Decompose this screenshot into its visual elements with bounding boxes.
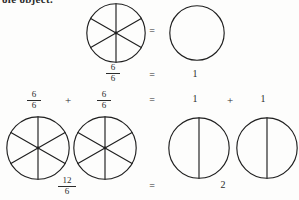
numerator: 6 <box>97 90 111 99</box>
row2-bottom-result-two: 2 <box>218 180 228 190</box>
row2-circle-d-svg <box>236 117 298 179</box>
row2-top-one-b: 1 <box>258 94 268 104</box>
clipped-heading-text: ole object. <box>2 0 53 5</box>
row1-equation-result-one: 1 <box>190 69 200 79</box>
denominator: 6 <box>97 101 111 110</box>
center-dot <box>115 32 118 35</box>
numerator: 6 <box>27 90 41 99</box>
row2-circle-two-halves-a <box>168 117 230 179</box>
row1-equation-equals-sign: = <box>146 70 158 80</box>
row2-circle-c-svg <box>168 117 230 179</box>
row2-fraction-twelve-sixths: 12 6 <box>58 176 76 197</box>
circle-outline <box>170 6 224 60</box>
denominator: 6 <box>27 101 41 110</box>
row2-circle-six-sectors-b <box>72 116 138 180</box>
row2-circle-six-sectors-a <box>5 116 71 180</box>
row1-fraction-six-sixths: 6 6 <box>106 63 120 84</box>
row2-top-one-a: 1 <box>190 94 200 104</box>
row1-circle-six-sectors-svg <box>84 3 148 63</box>
worksheet-page: ole object. = 6 6 = 1 6 6 + 6 6 <box>0 0 299 200</box>
denominator: 6 <box>106 74 120 83</box>
numerator: 12 <box>58 176 76 185</box>
row2-circle-b-svg <box>72 116 138 180</box>
row2-bottom-equals-sign: = <box>146 181 158 191</box>
row1-circle-whole <box>168 5 226 61</box>
row1-figures-equals-sign: = <box>146 26 158 36</box>
row1-circle-whole-svg <box>168 5 226 61</box>
denominator: 6 <box>58 187 76 196</box>
center-dot <box>37 147 40 150</box>
row2-circle-two-halves-b <box>236 117 298 179</box>
row2-top-plus-sign-1: + <box>63 95 73 106</box>
row2-circle-a-svg <box>5 116 71 180</box>
row1-circle-six-sectors <box>84 3 148 63</box>
numerator: 6 <box>106 63 120 72</box>
row2-top-plus-sign-2: + <box>225 95 235 106</box>
row2-top-equals-sign: = <box>146 95 158 105</box>
center-dot <box>104 147 107 150</box>
row2-fraction-term2: 6 6 <box>97 90 111 111</box>
row2-fraction-term1: 6 6 <box>27 90 41 111</box>
